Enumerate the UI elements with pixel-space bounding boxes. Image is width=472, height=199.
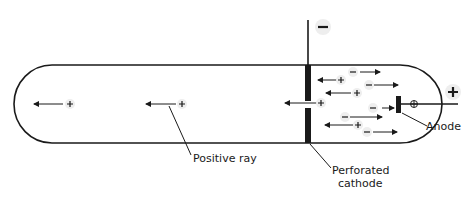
discharge-tube-diagram xyxy=(0,0,472,199)
glass-tube xyxy=(14,65,442,143)
perforated-cathode-label-line2: cathode xyxy=(338,177,383,190)
perforated-cathode-lower xyxy=(305,108,311,143)
anode-leader xyxy=(402,113,427,126)
positive-ray-leader xyxy=(169,106,191,155)
anode-label: Anode xyxy=(426,120,461,133)
anode-plate xyxy=(396,96,401,113)
positive-ray-label: Positive ray xyxy=(193,152,257,165)
cathode-leader xyxy=(310,144,331,168)
perforated-cathode-label: Perforated xyxy=(332,164,389,177)
perforated-cathode xyxy=(305,65,311,101)
